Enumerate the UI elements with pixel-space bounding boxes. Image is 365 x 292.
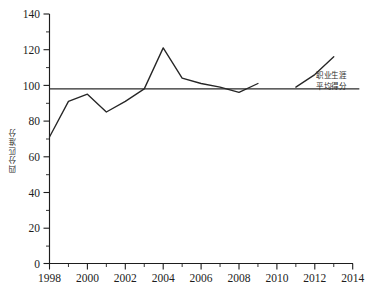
x-tick-label-2000: 2000 [76,272,99,284]
y-tick-label-120: 120 [23,44,41,56]
y-tick-label-40: 40 [29,187,41,199]
series-line-annual-score [50,48,258,137]
y-tick-label-140: 140 [23,8,41,20]
x-tick-label-2008: 2008 [228,272,251,284]
x-tick-label-2014: 2014 [341,272,364,284]
y-tick-label-100: 100 [23,80,41,92]
reference-line-annotation: 职业生涯 平均得分 [316,70,346,92]
y-tick-label-20: 20 [29,222,41,234]
y-tick-label-80: 80 [29,115,41,127]
y-tick-label-0: 0 [34,258,40,270]
y-axis-label: 四分匹准分 [8,128,24,173]
annotation-line-2: 平均得分 [316,81,346,92]
annotation-line-1: 职业生涯 [316,70,346,81]
x-tick-label-2012: 2012 [303,272,326,284]
x-tick-label-2004: 2004 [152,272,175,284]
x-tick-label-2002: 2002 [114,272,137,284]
x-axis-major-ticks [50,264,353,270]
line-chart-canvas: 140 120 100 80 60 40 20 0 [0,0,365,292]
x-tick-label-2006: 2006 [190,272,213,284]
chart-container: 140 120 100 80 60 40 20 0 [0,0,365,292]
x-tick-label-2010: 2010 [265,272,288,284]
x-tick-label-1998: 1998 [38,272,61,284]
y-tick-label-60: 60 [29,151,41,163]
